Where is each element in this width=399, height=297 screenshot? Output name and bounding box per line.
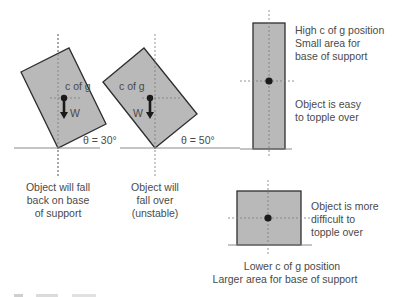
caption-line-2: fall over: [137, 194, 174, 206]
panel-tilt-30: c of g W θ = 30° Object will fall back o…: [14, 34, 117, 219]
weight-label: W: [133, 107, 143, 119]
cg-dot: [265, 77, 272, 84]
note-bottom-line-1: Object is easy: [295, 98, 362, 110]
caption-line-3: of support: [35, 207, 82, 219]
note-top-line-3: base of support: [295, 50, 367, 62]
angle-label: θ = 30°: [83, 134, 117, 146]
caption-line-2: back on base: [27, 194, 90, 206]
panel-tall-object: High c of g position Small area for base…: [240, 10, 384, 158]
note-right-line-1: Object is more: [311, 200, 379, 212]
cg-label: c of g: [119, 80, 145, 92]
cg-label: c of g: [65, 80, 91, 92]
note-top-line-2: Small area for: [295, 37, 361, 49]
caption-line-1: Object will: [131, 181, 179, 193]
panel-tilt-50: c of g W θ = 50° Object will fall over (…: [103, 34, 240, 219]
caption-line-2: Larger area for base of support: [213, 273, 358, 285]
panel-wide-object: Object is more difficult to topple over …: [213, 180, 379, 285]
note-right-line-2: difficult to: [311, 213, 355, 225]
weight-label: W: [70, 107, 80, 119]
angle-label: θ = 50°: [181, 134, 215, 146]
caption-line-1: Object will fall: [26, 181, 90, 193]
note-top-line-1: High c of g position: [295, 24, 384, 36]
caption-line-3: (unstable): [132, 207, 179, 219]
caption-line-1: Lower c of g position: [244, 260, 340, 272]
cg-dot: [264, 214, 271, 221]
note-bottom-line-2: to topple over: [295, 111, 359, 123]
note-right-line-3: topple over: [311, 226, 363, 238]
stability-diagram: c of g W θ = 30° Object will fall back o…: [0, 0, 399, 297]
